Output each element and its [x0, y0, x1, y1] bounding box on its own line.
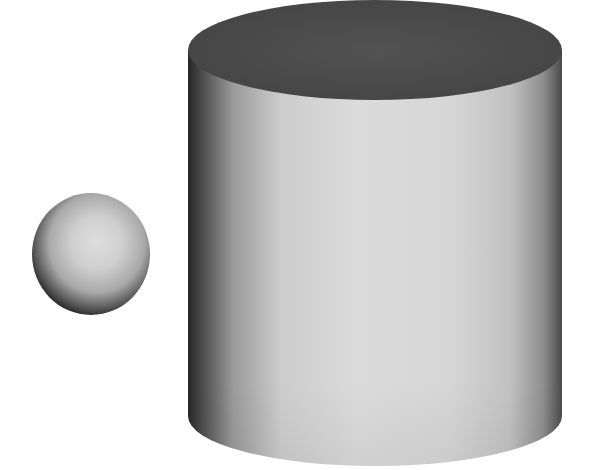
sphere	[32, 193, 150, 315]
render-scene: 3D render of a small sphere next to a la…	[0, 0, 596, 470]
cylinder-top	[188, 0, 562, 100]
scene-canvas	[0, 0, 596, 470]
cylinder	[188, 0, 562, 466]
